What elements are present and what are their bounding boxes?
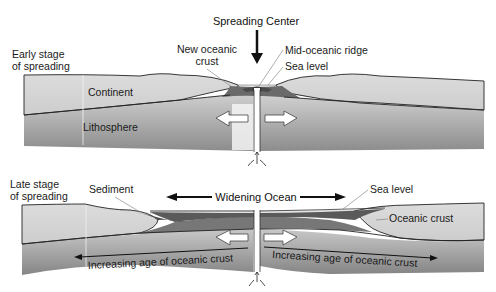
early-stage-label: Early stage: [12, 48, 65, 60]
widening-ocean-arrow-left-icon: [166, 193, 212, 201]
rift-fissure-late: [254, 208, 260, 272]
continent-label: Continent: [88, 86, 133, 98]
early-stage-panel: Early stage of spreading New oceanic cru…: [12, 43, 484, 166]
sediment-label: Sediment: [89, 183, 133, 195]
sea-level-label-late: Sea level: [370, 183, 413, 195]
spreading-center-title: Spreading Center: [213, 15, 300, 27]
rift-fissure: [254, 88, 260, 152]
seafloor-spreading-diagram: Spreading Center: [0, 0, 496, 292]
late-stage-label: Late stage: [10, 178, 59, 190]
spreading-center-arrow-icon: [251, 30, 263, 64]
magma-upwelling-arrows-late-icon: [249, 272, 265, 286]
mid-oceanic-ridge-label: Mid-oceanic ridge: [285, 44, 368, 56]
early-stage-label-2: of spreading: [12, 60, 70, 72]
widening-ocean-arrow-right-icon: [300, 193, 346, 201]
new-oceanic-crust-label: New oceanic: [177, 43, 237, 55]
late-stage-label-2: of spreading: [10, 190, 68, 202]
widening-ocean-label: Widening Ocean: [215, 191, 296, 203]
lithosphere-label: Lithosphere: [83, 121, 138, 133]
late-stage-panel: Late stage of spreading Sediment Widenin…: [10, 178, 484, 286]
oceanic-crust-label: Oceanic crust: [389, 212, 453, 224]
magma-upwelling-arrows-icon: [248, 152, 266, 166]
new-oceanic-crust-label-2: crust: [196, 55, 219, 67]
sea-level-label: Sea level: [285, 60, 328, 72]
